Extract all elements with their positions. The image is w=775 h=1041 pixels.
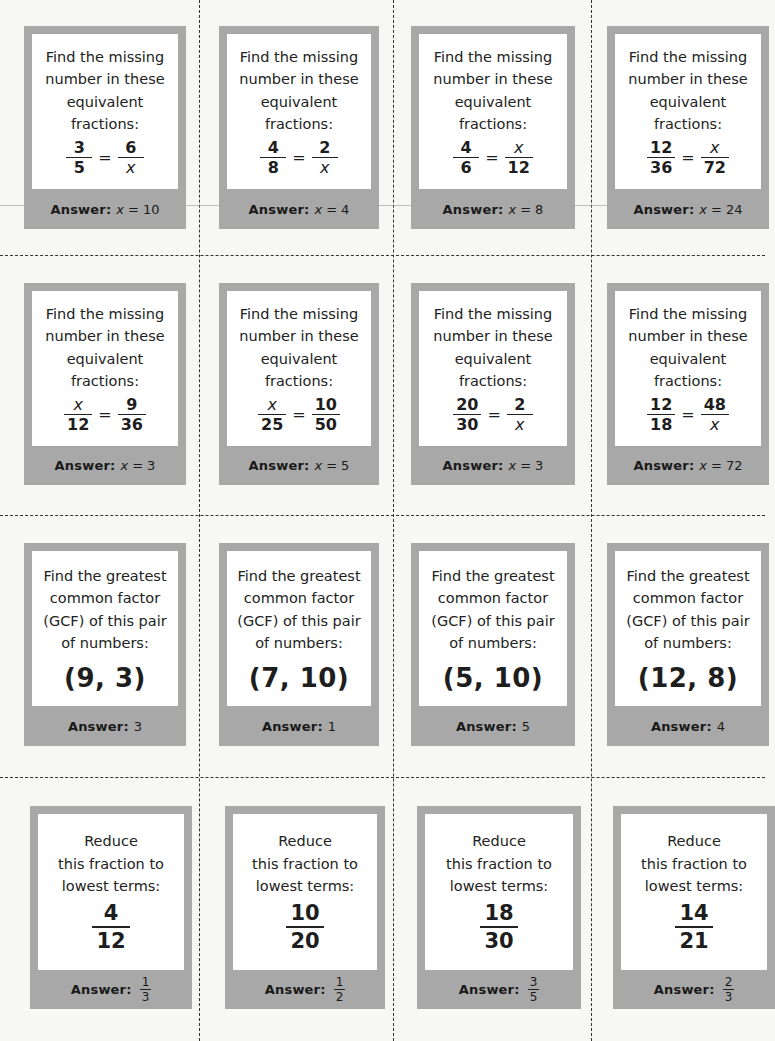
answer-value: 10: [143, 202, 160, 217]
fraction-to-reduce: 412: [92, 900, 129, 954]
answer-equals: =: [711, 202, 722, 217]
flashcard-gcf: Find the greatestcommon factor(GCF) of t…: [24, 543, 186, 746]
card-prompt: Find the missingnumber in theseequivalen…: [45, 303, 164, 393]
fraction-equation: 2030=2x: [453, 395, 533, 435]
numerator: 3: [528, 975, 540, 989]
denominator: 12: [505, 158, 533, 177]
cut-line-horizontal-1: [0, 255, 765, 256]
card-answer: Answer:4: [607, 706, 769, 746]
left-fraction: x12: [64, 395, 92, 435]
denominator: 50: [312, 415, 340, 434]
card-prompt: Find the missingnumber in theseequivalen…: [628, 303, 747, 393]
answer-fraction: 12: [334, 975, 346, 1004]
cut-line-vertical-1: [199, 0, 200, 1041]
answer-label: Answer:: [265, 982, 326, 997]
prompt-line: Find the missing: [433, 46, 552, 69]
answer-label: Answer:: [633, 202, 694, 217]
left-fraction: 1218: [647, 395, 675, 435]
prompt-line: equivalent: [45, 348, 164, 371]
card-answer: Answer:13: [30, 970, 192, 1009]
fraction-to-reduce: 1830: [480, 900, 517, 954]
card-question-area: Find the missingnumber in theseequivalen…: [32, 291, 178, 446]
answer-label: Answer:: [654, 982, 715, 997]
answer-value: 4: [717, 719, 725, 734]
prompt-line: Find the missing: [45, 46, 164, 69]
denominator: 21: [675, 928, 712, 954]
fraction-equation: 35=6x: [66, 138, 143, 178]
fraction-equation: 46=x12: [453, 138, 533, 178]
card-answer: Answer:35: [417, 970, 581, 1009]
answer-fraction: 23: [723, 975, 735, 1004]
prompt-line: Reduce: [641, 830, 747, 853]
prompt-line: fractions:: [45, 113, 164, 136]
numerator: 3: [71, 138, 88, 157]
equals-sign: =: [487, 405, 500, 424]
equals-sign: =: [98, 148, 111, 167]
card-question-area: Find the missingnumber in theseequivalen…: [419, 34, 567, 189]
denominator: 20: [286, 928, 323, 954]
card-question-area: Find the missingnumber in theseequivalen…: [227, 34, 371, 189]
prompt-line: Reduce: [58, 830, 164, 853]
prompt-line: number in these: [45, 68, 164, 91]
denominator: 8: [265, 158, 282, 177]
prompt-line: common factor: [237, 587, 360, 610]
denominator: 12: [64, 415, 92, 434]
numerator: 2: [723, 975, 735, 989]
prompt-line: lowest terms:: [641, 875, 747, 898]
flashcard-equivalent-fractions: Find the missingnumber in theseequivalen…: [607, 283, 769, 485]
card-prompt: Reducethis fraction tolowest terms:: [252, 830, 358, 898]
prompt-line: lowest terms:: [446, 875, 552, 898]
equals-sign: =: [292, 148, 305, 167]
prompt-line: fractions:: [628, 113, 747, 136]
prompt-line: Reduce: [446, 830, 552, 853]
card-question-area: Reducethis fraction tolowest terms:412: [38, 814, 184, 970]
numerator: 10: [286, 900, 323, 926]
flashcard-gcf: Find the greatestcommon factor(GCF) of t…: [607, 543, 769, 746]
denominator: 6: [458, 158, 475, 177]
card-answer: Answer:3: [24, 706, 186, 746]
right-fraction: 2x: [507, 395, 533, 435]
left-fraction: 46: [453, 138, 479, 178]
right-fraction: 48x: [701, 395, 729, 435]
prompt-line: Find the missing: [239, 303, 358, 326]
answer-variable: x: [509, 202, 517, 217]
card-answer: Answer:x=3: [411, 446, 575, 485]
prompt-line: Reduce: [252, 830, 358, 853]
prompt-line: equivalent: [628, 348, 747, 371]
answer-equals: =: [520, 202, 531, 217]
card-question-area: Find the missingnumber in theseequivalen…: [419, 291, 567, 446]
card-question-area: Find the missingnumber in theseequivalen…: [615, 34, 761, 189]
prompt-line: equivalent: [628, 91, 747, 114]
numerator: 2: [316, 138, 333, 157]
flashcard-reduce: Reducethis fraction tolowest terms:1020A…: [225, 806, 385, 1009]
cut-line-horizontal-2: [0, 515, 765, 516]
card-prompt: Find the greatestcommon factor(GCF) of t…: [431, 565, 554, 655]
fraction-equation: 1218=48x: [647, 395, 729, 435]
answer-variable: x: [699, 458, 707, 473]
answer-label: Answer:: [55, 458, 116, 473]
card-answer: Answer:12: [225, 970, 385, 1009]
numerator: 6: [122, 138, 139, 157]
equals-sign: =: [681, 148, 694, 167]
answer-equals: =: [326, 458, 337, 473]
numerator: 18: [480, 900, 517, 926]
prompt-line: number in these: [45, 325, 164, 348]
prompt-line: of numbers:: [237, 632, 360, 655]
flashcard-reduce: Reducethis fraction tolowest terms:1830A…: [417, 806, 581, 1009]
prompt-line: number in these: [239, 68, 358, 91]
answer-fraction: 35: [528, 975, 540, 1004]
answer-label: Answer:: [50, 202, 111, 217]
denominator: 12: [92, 928, 129, 954]
flashcard-equivalent-fractions: Find the missingnumber in theseequivalen…: [219, 26, 379, 229]
answer-fraction: 13: [140, 975, 152, 1004]
denominator: 2: [334, 990, 346, 1004]
answer-label: Answer:: [249, 202, 310, 217]
answer-equals: =: [326, 202, 337, 217]
numerator: x: [511, 138, 526, 157]
prompt-line: common factor: [43, 587, 166, 610]
denominator: 72: [701, 158, 729, 177]
numerator: 9: [123, 395, 140, 414]
prompt-line: lowest terms:: [252, 875, 358, 898]
card-question-area: Find the greatestcommon factor(GCF) of t…: [615, 551, 761, 706]
flashcard-equivalent-fractions: Find the missingnumber in theseequivalen…: [24, 26, 186, 229]
